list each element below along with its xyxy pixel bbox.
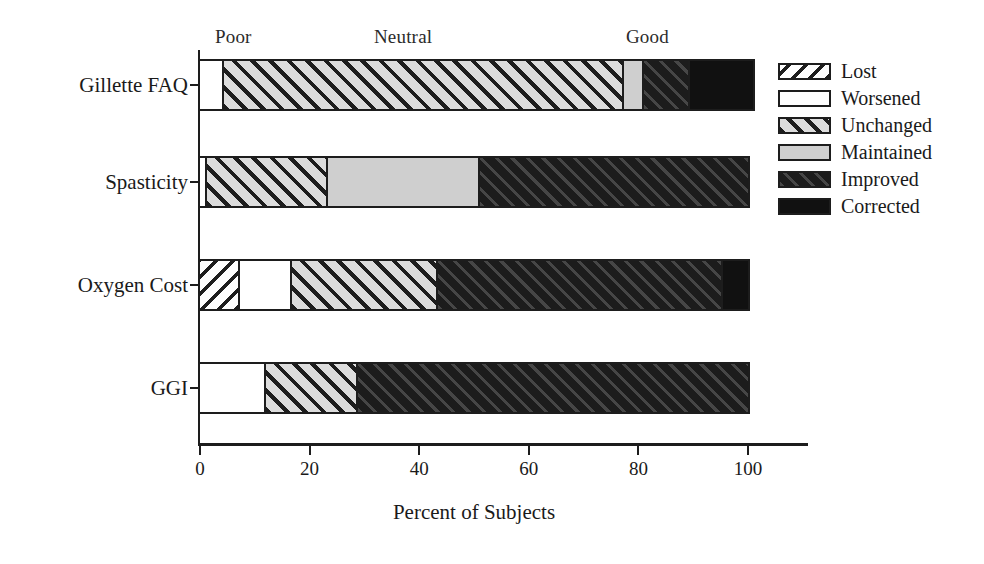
x-axis-tick-label: 0 [195,458,205,480]
legend-label: Unchanged [841,114,932,137]
stacked-bar-chart: Poor Neutral Good Gillette FAQ Spasticit… [0,0,984,564]
legend-swatch-maintained-icon [778,144,831,161]
bar-segment-improved [478,158,748,206]
bar-segment-unchanged [205,158,326,206]
bar-gillette-faq [198,59,755,111]
x-axis-tick [528,446,530,455]
y-axis-label-gillette-faq: Gillette FAQ [79,73,188,98]
legend-label: Maintained [841,141,932,164]
x-axis-tick [637,446,639,455]
x-axis-tick [199,446,201,455]
legend-item-corrected[interactable]: Corrected [778,193,978,219]
y-axis-tick [190,84,198,86]
y-axis-label-ggi: GGI [151,376,188,401]
x-axis-tick-label: 20 [300,458,319,480]
y-axis-labels: Gillette FAQ Spasticity Oxygen Cost GGI [10,0,188,564]
y-axis-tick [190,284,198,286]
x-axis-tick [309,446,311,455]
legend-item-worsened[interactable]: Worsened [778,85,978,111]
legend-swatch-improved-icon [778,171,831,188]
zone-label-good: Good [626,26,669,48]
bar-segment-unchanged [290,261,435,309]
bar-segment-maintained [326,158,478,206]
bar-segment-corrected [688,61,754,109]
x-axis-tick [747,446,749,455]
x-axis-line [198,443,808,446]
bar-segment-worsened [238,261,290,309]
y-axis-label-oxygen-cost: Oxygen Cost [78,273,188,298]
legend-label: Worsened [841,87,920,110]
legend-swatch-unchanged-icon [778,117,831,134]
legend-swatch-worsened-icon [778,90,831,107]
x-axis-title: Percent of Subjects [393,500,555,525]
x-axis-tick-label: 80 [629,458,648,480]
x-axis-tick-label: 100 [734,458,763,480]
legend-item-maintained[interactable]: Maintained [778,139,978,165]
bar-segment-worsened [200,61,222,109]
bar-spasticity [198,156,750,208]
bar-segment-unchanged [264,364,356,412]
bar-segment-improved [356,364,748,412]
legend: LostWorsenedUnchangedMaintainedImprovedC… [778,58,978,220]
y-axis-tick [190,387,198,389]
bar-segment-worsened [200,364,264,412]
bar-segment-unchanged [222,61,622,109]
bar-segment-improved [642,61,687,109]
legend-item-unchanged[interactable]: Unchanged [778,112,978,138]
y-axis-label-spasticity: Spasticity [105,170,188,195]
bar-oxygen-cost [198,259,750,311]
zone-label-poor: Poor [215,26,252,48]
x-axis-tick-label: 40 [410,458,429,480]
y-axis-tick [190,181,198,183]
x-axis-tick [418,446,420,455]
legend-swatch-lost-icon [778,63,831,80]
legend-item-improved[interactable]: Improved [778,166,978,192]
bar-segment-corrected [721,261,748,309]
bar-segment-lost [200,261,238,309]
zone-label-neutral: Neutral [374,26,432,48]
legend-label: Lost [841,60,877,83]
legend-label: Corrected [841,195,920,218]
legend-item-lost[interactable]: Lost [778,58,978,84]
legend-swatch-corrected-icon [778,198,831,215]
bar-segment-maintained [622,61,642,109]
x-axis-tick-label: 60 [519,458,538,480]
bar-segment-improved [436,261,721,309]
legend-label: Improved [841,168,919,191]
bar-ggi [198,362,750,414]
